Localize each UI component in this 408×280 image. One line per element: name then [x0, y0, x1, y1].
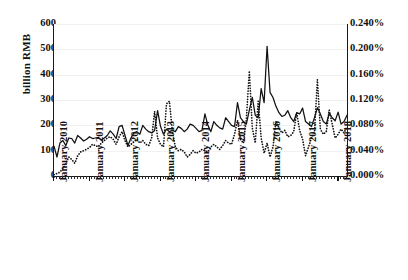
y2-tick-label: 0.240% [350, 18, 384, 29]
y2-tick-label: 0.080% [350, 119, 384, 130]
y2-tick-label: 0.200% [350, 43, 384, 54]
x-tick-label: January 2012 [129, 121, 140, 182]
x-tick-label: January 2010 [58, 121, 69, 182]
x-tick-label: January 2014 [200, 121, 211, 182]
x-tick-label: January 2018 [342, 121, 353, 182]
x-axis-tick-labels: January 2010January 2011January 2012Janu… [53, 182, 346, 278]
y2-tick-label: 0.000% [350, 170, 384, 181]
y2-tick-label: 0.040% [350, 145, 384, 156]
x-tick-label: January 2015 [236, 121, 247, 182]
y-axis-title: billion RMB [20, 12, 32, 116]
y2-tick-label: 0.160% [350, 69, 384, 80]
x-tick-label: January 2013 [165, 121, 176, 182]
x-tick-label: January 2011 [94, 122, 105, 182]
y2-tick-label: 0.120% [350, 94, 384, 105]
x-tick-label: January 2016 [271, 121, 282, 182]
chart-figure: billion RMB 0100200300400500600 0.000%0.… [0, 0, 408, 280]
x-tick-label: January 2017 [307, 121, 318, 182]
